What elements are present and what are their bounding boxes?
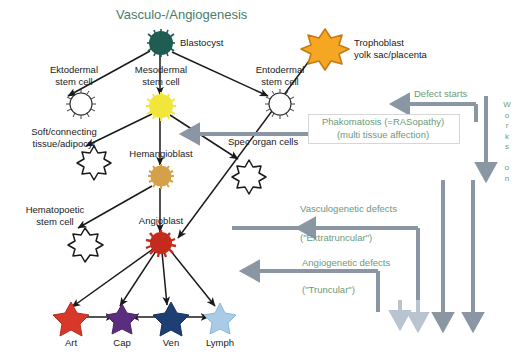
label-phakomatosis-line1: Phakomatosis (=RASopathy)	[308, 116, 458, 127]
label-defect-starts: Defect starts	[414, 88, 467, 99]
node-lymph[interactable]	[204, 303, 236, 334]
label-trophoblast-line1: Trophoblast	[354, 37, 404, 48]
diagram-canvas: Vasculo-/Angiogenesis Blastocyst Ektoder…	[0, 0, 526, 359]
label-ektodermal-stem-cell-line1: Ektodermal	[31, 64, 117, 75]
works-on-letter: o	[505, 111, 509, 120]
diagram-svg	[0, 0, 526, 359]
label-hematopoetic-line1: Hematopoetic	[7, 204, 103, 215]
label-entodermal-stem-cell-line1: Entodermal	[235, 64, 325, 75]
label-soft-connecting-line2: tissue/adipocyt	[9, 138, 119, 149]
bottom-down-arrows	[418, 180, 473, 330]
node-hemangioblast[interactable]	[148, 164, 174, 189]
label-lymph: Lymph	[198, 337, 242, 348]
label-angioblast: Angioblast	[117, 215, 205, 226]
label-hematopoetic-line2: stem cell	[7, 216, 103, 227]
label-entodermal-stem-cell-line2: stem cell	[235, 76, 325, 87]
node-spec-organ-cells[interactable]	[232, 160, 266, 194]
node-hematopoetic-stem-cell[interactable]	[68, 228, 103, 262]
works-on-letter: o	[505, 163, 509, 172]
works-on-letter: W	[503, 100, 511, 109]
label-ektodermal-stem-cell-line2: stem cell	[31, 76, 117, 87]
label-angiogenetic-line1: Angiogenetic defects	[302, 257, 390, 268]
label-blastocyst: Blastocyst	[180, 37, 223, 48]
node-cap[interactable]	[106, 304, 138, 334]
label-art: Art	[52, 337, 90, 348]
works-on-letter: k	[505, 132, 509, 141]
label-vasculogenetic-line2: ("Extratruncular")	[300, 232, 372, 243]
label-ven: Ven	[152, 337, 190, 348]
works-on-letter: n	[505, 174, 509, 183]
label-vasculogenetic-line1: Vasculogenetic defects	[300, 203, 397, 214]
label-works-on: W o r k s o n	[501, 100, 513, 184]
node-blastocyst[interactable]	[147, 29, 175, 57]
lineage-connectors	[68, 51, 312, 317]
label-soft-connecting-line1: Soft/connecting	[9, 126, 119, 137]
node-ektodermal-stem-cell[interactable]	[66, 89, 96, 119]
label-hemangioblast: Hemangioblast	[113, 148, 209, 159]
label-mesodermal-stem-cell-line1: Mesodermal	[115, 64, 207, 75]
node-soft-connecting-tissue[interactable]	[77, 146, 111, 180]
node-ven[interactable]	[153, 302, 189, 336]
label-mesodermal-stem-cell-line2: stem cell	[115, 76, 207, 87]
node-art[interactable]	[53, 302, 89, 336]
label-spec-organ-cells: Spec organ cells	[228, 136, 298, 147]
label-angiogenetic-line2: ("Truncular")	[302, 284, 355, 295]
label-phakomatosis-line2: (multi tissue affection)	[308, 129, 458, 140]
works-on-letter: s	[505, 142, 509, 151]
works-on-letter: r	[506, 121, 509, 130]
node-angioblast[interactable]	[146, 230, 176, 257]
label-trophoblast-line2: yolk sac/placenta	[354, 49, 427, 60]
label-cap: Cap	[103, 337, 141, 348]
page-title: Vasculo-/Angiogenesis	[116, 7, 247, 22]
